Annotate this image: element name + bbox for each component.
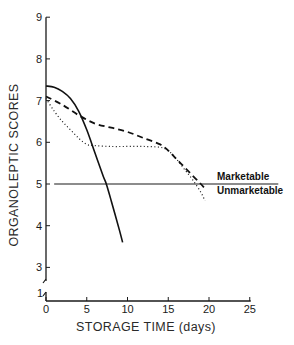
x-tick-label: 25 [244,303,256,315]
y-tick-label: 6 [36,136,42,148]
y-tick-label: 4 [36,220,42,232]
series-group [46,86,207,242]
chart: 345678910510152025 STORAGE TIME (days) O… [0,0,294,345]
y-tick-label: 5 [36,178,42,190]
y-tick-label: 9 [36,11,42,23]
y-tick-label: 3 [36,261,42,273]
axes: 345678910510152025 [36,11,256,315]
unmarketable-label: Unmarketable [217,185,284,196]
x-tick-label: 5 [84,303,90,315]
y-tick-label: 7 [36,95,42,107]
series-solid-line [46,86,123,242]
x-tick-label: 0 [43,303,49,315]
y-tick-label: 8 [36,53,42,65]
x-axis-title: STORAGE TIME (days) [76,320,216,334]
x-tick-label: 15 [162,303,174,315]
x-tick-label: 10 [121,303,133,315]
marketable-label: Marketable [217,171,270,182]
series-dotted-line [46,99,205,201]
y-origin-label: 1 [37,287,43,299]
series-dashed-line [46,96,207,190]
y-axis-title: ORGANOLEPTIC SCORES [7,83,21,246]
x-tick-label: 20 [203,303,215,315]
